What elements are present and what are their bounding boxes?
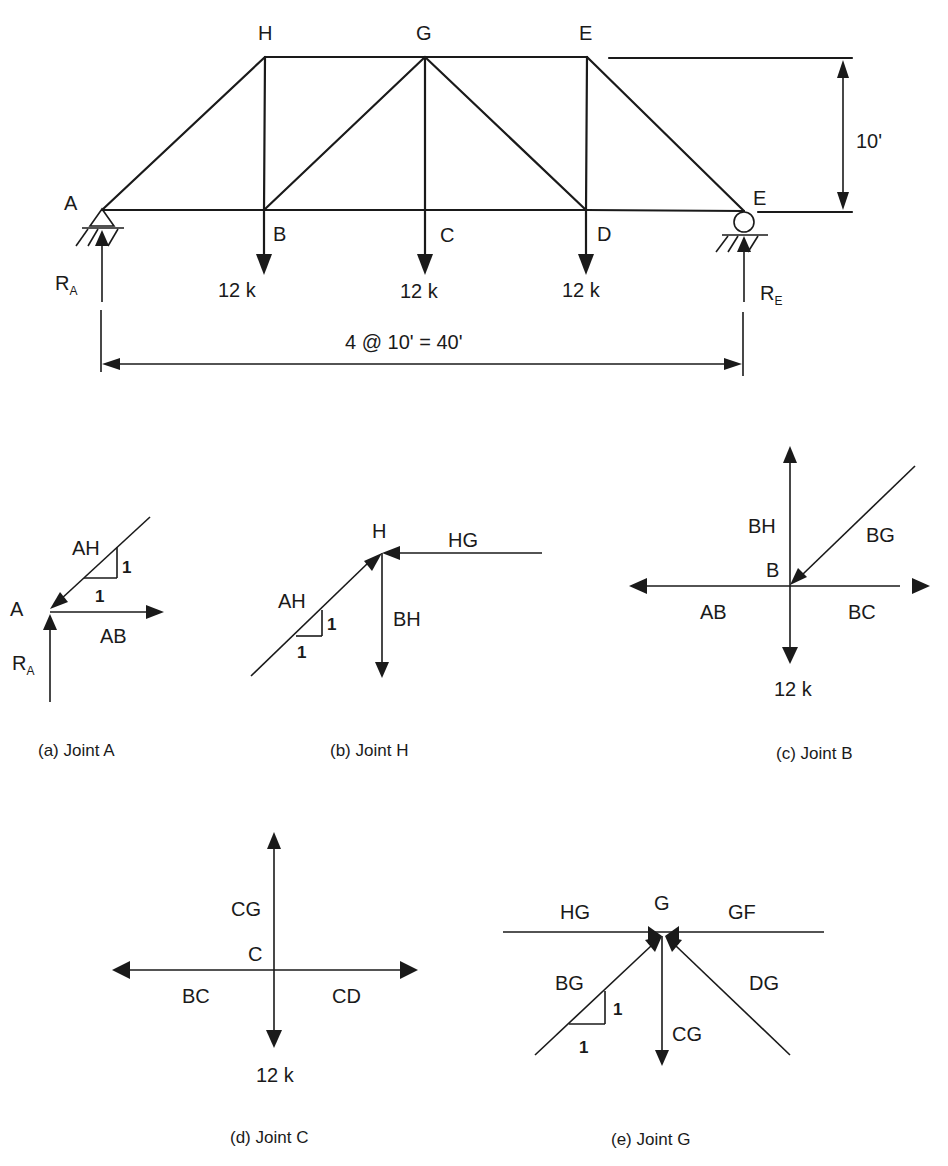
truss-diagram: H G E A B C D E RA [55, 22, 882, 376]
joint-h-diagram: H HG AH BH 1 1 (b) Joint H [251, 520, 542, 760]
member-label-bc: BC [182, 985, 210, 1007]
arrow-cg [655, 1050, 669, 1066]
height-dimension [609, 58, 852, 212]
member-label-bh: BH [393, 608, 421, 630]
member-label-cd: CD [332, 985, 361, 1007]
span-dimension-label: 4 @ 10' = 40' [345, 331, 462, 353]
member-label-hg: HG [560, 901, 590, 923]
node-label-d: D [597, 223, 611, 245]
arrow-ab [629, 578, 647, 594]
member-label-ah: AH [278, 590, 306, 612]
joint-b-diagram: BH BG B AB BC 12 k (c) Joint B [629, 446, 930, 763]
joint-label-g: G [654, 892, 670, 914]
reaction-arrow-a [95, 230, 109, 302]
arrow-hg [382, 546, 400, 560]
member-label-cg: CG [672, 1023, 702, 1045]
load-label-b: 12 k [218, 279, 257, 301]
member-label-bc: BC [848, 601, 876, 623]
member-label-bg: BG [866, 524, 895, 546]
truss-members [102, 57, 744, 211]
member-label-ah: AH [72, 537, 100, 559]
load-label-c: 12 k [256, 1064, 295, 1086]
member-label-bh: BH [748, 515, 776, 537]
caption-joint-b: (c) Joint B [776, 744, 853, 763]
node-label-f: E [579, 22, 592, 44]
slope-run-label: 1 [579, 1038, 588, 1057]
arrow-bc [912, 578, 930, 594]
member-ah [251, 563, 368, 676]
member-label-ab: AB [100, 625, 127, 647]
caption-joint-h: (b) Joint H [330, 741, 408, 760]
slope-rise-label: 1 [122, 558, 131, 577]
reaction-label-ra: RA [12, 652, 34, 678]
reaction-label-e: RE [760, 282, 782, 308]
truss-loads [256, 210, 594, 275]
arrow-bc [112, 961, 130, 979]
load-label-d: 12 k [562, 279, 601, 301]
member-bg [535, 946, 651, 1055]
slope-rise-label: 1 [327, 615, 336, 634]
caption-joint-a: (a) Joint A [38, 741, 115, 760]
member-label-ab: AB [700, 601, 727, 623]
member-bg [802, 466, 915, 575]
member-label-cg: CG [231, 898, 261, 920]
height-dimension-label: 10' [856, 130, 882, 152]
joint-g-diagram: HG G GF BG DG CG 1 1 (e) Joint G [503, 892, 824, 1149]
joint-label-c: C [248, 943, 262, 965]
member-bg [264, 57, 425, 210]
member-label-hg: HG [448, 529, 478, 551]
load-arrow-c [417, 210, 433, 275]
load-arrow-d [578, 210, 594, 275]
joint-label-b: B [766, 559, 779, 581]
node-label-c: C [440, 224, 454, 246]
joint-label-a: A [10, 598, 24, 620]
member-ah [102, 57, 265, 210]
node-label-g: G [416, 22, 432, 44]
arrow-cg [267, 832, 281, 849]
joint-label-h: H [372, 520, 386, 542]
reaction-arrow-e [737, 236, 751, 302]
member-label-bg: BG [555, 972, 584, 994]
slope-rise-label: 1 [613, 1000, 622, 1019]
joint-a-diagram: AH 1 1 A AB RA (a) Joint A [10, 517, 164, 760]
node-label-h: H [258, 22, 272, 44]
node-label-e: E [753, 187, 766, 209]
member-de [586, 210, 744, 211]
member-gd [425, 57, 586, 210]
arrow-bh [783, 446, 797, 463]
reaction-label-a: RA [55, 272, 77, 298]
member-fe [587, 57, 744, 211]
joint-c-diagram: CG C BC CD 12 k (d) Joint C [112, 832, 418, 1147]
slope-run-label: 1 [95, 587, 104, 606]
arrow-load-c [266, 1030, 282, 1048]
node-label-a: A [64, 192, 78, 214]
truss-figure: H G E A B C D E RA [0, 0, 948, 1166]
member-label-dg: DG [749, 972, 779, 994]
arrow-ah [364, 553, 382, 571]
arrow-load-b [782, 647, 798, 664]
node-label-b: B [273, 223, 286, 245]
load-label-c: 12 k [400, 280, 439, 302]
arrow-cd [400, 961, 418, 979]
caption-joint-g: (e) Joint G [611, 1130, 690, 1149]
load-arrow-b [256, 210, 272, 275]
member-fd [586, 57, 587, 210]
load-label-b: 12 k [774, 678, 813, 700]
caption-joint-c: (d) Joint C [230, 1128, 308, 1147]
arrow-bg [790, 568, 807, 585]
member-label-gf: GF [728, 901, 756, 923]
member-hb [264, 57, 265, 210]
arrow-ra [43, 614, 57, 630]
arrow-bh [375, 662, 389, 678]
slope-run-label: 1 [297, 643, 306, 662]
arrow-ab [146, 605, 164, 619]
